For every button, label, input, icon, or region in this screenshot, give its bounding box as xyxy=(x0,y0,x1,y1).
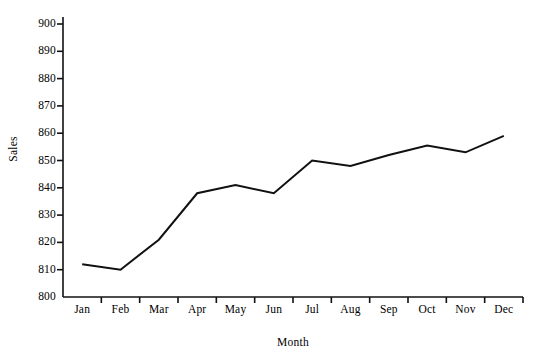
axis-lines xyxy=(63,17,523,297)
y-axis-ticks xyxy=(57,24,63,270)
line-chart: Sales 800810820830840850860870880890900 … xyxy=(0,0,538,362)
x-axis-ticks xyxy=(101,297,523,303)
plot-area xyxy=(0,0,538,362)
data-line xyxy=(82,136,504,270)
data-series xyxy=(82,136,504,270)
